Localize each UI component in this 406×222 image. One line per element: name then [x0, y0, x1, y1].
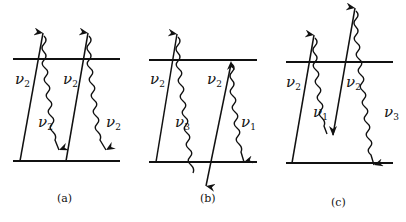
frequency-label-nu2: ν2 — [15, 70, 30, 89]
frequency-label-nu2: ν2 — [63, 70, 78, 89]
panel-c: (c) — [286, 8, 393, 209]
pump-arrow-up — [292, 35, 314, 163]
pump-arrow-up — [66, 33, 88, 161]
panel-caption: (b) — [200, 192, 216, 205]
level-diagram: (a) (b) (c) ν2ν2ν2ν2ν2ν2ν3ν1ν2ν2ν1ν3 — [0, 0, 406, 222]
frequency-label-nu2: ν2 — [207, 70, 222, 89]
frequency-label-nu3: ν3 — [175, 113, 190, 132]
frequency-label-nu2: ν2 — [106, 113, 121, 132]
pump-arrow-up — [333, 8, 355, 135]
emission-wavy-arrow-nu3 — [176, 37, 194, 173]
frequency-label-nu2: ν2 — [150, 70, 165, 89]
pump-arrow-up — [20, 33, 43, 161]
frequency-label-nu2: ν2 — [346, 73, 361, 92]
panel-caption: (c) — [331, 196, 346, 209]
frequency-label-nu1: ν1 — [241, 113, 256, 132]
frequency-label-nu3: ν3 — [384, 103, 399, 122]
frequency-label-nu2: ν2 — [286, 73, 301, 92]
frequency-label-nu1: ν1 — [313, 103, 328, 122]
panel-a: (a) — [13, 33, 120, 205]
emission-wavy-arrow — [42, 36, 59, 150]
emission-wavy-arrow — [87, 36, 106, 150]
arrowhead-down — [329, 126, 337, 136]
panel-caption: (a) — [57, 192, 72, 205]
pump-arrow-up — [156, 34, 177, 162]
